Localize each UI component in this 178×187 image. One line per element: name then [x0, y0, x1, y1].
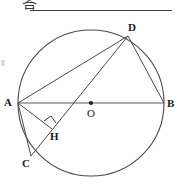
point-label-H: H: [50, 131, 59, 142]
segment-chord-DC: [31, 36, 128, 156]
segment-chord-DB: [128, 36, 164, 103]
point-label-D: D: [128, 22, 136, 33]
center-point-dot-O: [89, 101, 93, 105]
point-label-B: B: [167, 98, 174, 109]
point-label-C: C: [22, 158, 30, 169]
right-angle-marker-H: [44, 116, 56, 123]
point-label-A: A: [4, 97, 12, 108]
point-label-O: O: [87, 108, 95, 119]
figure-page: 答 A B D C O H: [0, 0, 178, 187]
segment-chord-AD: [18, 36, 128, 103]
